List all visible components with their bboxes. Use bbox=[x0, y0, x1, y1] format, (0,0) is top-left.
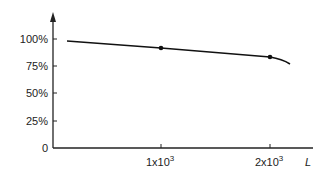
y-tick-label-0: 0 bbox=[42, 142, 48, 154]
data-line bbox=[67, 41, 290, 64]
x-tick-label-1e3: 1x103 bbox=[146, 154, 175, 168]
data-point-1e3 bbox=[159, 46, 164, 51]
line-chart: 100% 75% 50% 25% 0 1x103 2x103 L bbox=[0, 0, 329, 175]
y-axis-arrow-icon bbox=[50, 12, 56, 22]
data-point-2e3 bbox=[268, 55, 273, 60]
x-tick-label-2e3: 2x103 bbox=[255, 154, 284, 168]
y-tick-label-50: 50% bbox=[26, 87, 48, 99]
y-tick-label-25: 25% bbox=[26, 115, 48, 127]
x-axis-label: L bbox=[305, 156, 311, 168]
y-tick-label-100: 100% bbox=[20, 33, 48, 45]
y-tick-label-75: 75% bbox=[26, 60, 48, 72]
